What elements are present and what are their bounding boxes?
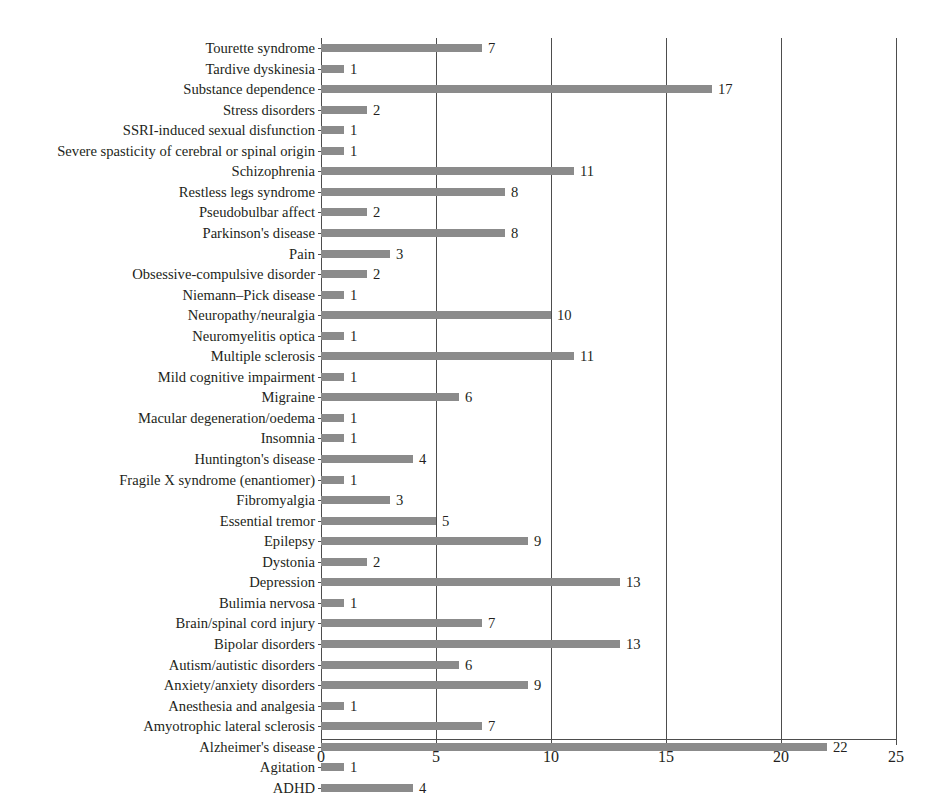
bar-value-label: 1	[350, 141, 357, 162]
category-label: Obsessive-compulsive disorder	[0, 264, 315, 285]
bar-value-label: 2	[373, 202, 380, 223]
bar-value-label: 13	[626, 634, 641, 655]
category-label: Insomnia	[0, 428, 315, 449]
bar-row: SSRI-induced sexual disfunction1	[0, 120, 942, 141]
bar-value-label: 2	[373, 264, 380, 285]
bar	[321, 476, 344, 484]
bar-value-label: 10	[557, 305, 572, 326]
bar	[321, 352, 574, 360]
bar-value-label: 8	[511, 223, 518, 244]
bar	[321, 291, 344, 299]
category-label: Epilepsy	[0, 531, 315, 552]
bar-value-label: 7	[488, 613, 495, 634]
bar-row: Agitation1	[0, 757, 942, 778]
bar-value-label: 9	[534, 675, 541, 696]
category-label: Substance dependence	[0, 79, 315, 100]
bar	[321, 311, 551, 319]
bar-value-label: 4	[419, 778, 426, 798]
bar-value-label: 1	[350, 367, 357, 388]
bar	[321, 681, 528, 689]
bar-value-label: 4	[419, 449, 426, 470]
bar-value-label: 1	[350, 120, 357, 141]
bar-value-label: 2	[373, 100, 380, 121]
bar-value-label: 13	[626, 572, 641, 593]
category-label: Amyotrophic lateral sclerosis	[0, 716, 315, 737]
bar	[321, 126, 344, 134]
category-label: Alzheimer's disease	[0, 737, 315, 758]
bar	[321, 496, 390, 504]
bar-row: Obsessive-compulsive disorder2	[0, 264, 942, 285]
bar-row: Pseudobulbar affect2	[0, 202, 942, 223]
category-label: Anxiety/anxiety disorders	[0, 675, 315, 696]
bar-row: Schizophrenia11	[0, 161, 942, 182]
bar-row: Stress disorders2	[0, 100, 942, 121]
bar	[321, 434, 344, 442]
bar-row: Mild cognitive impairment1	[0, 367, 942, 388]
bar-value-label: 6	[465, 655, 472, 676]
bar-row: Amyotrophic lateral sclerosis7	[0, 716, 942, 737]
bar	[321, 619, 482, 627]
bar	[321, 250, 390, 258]
bar-value-label: 1	[350, 593, 357, 614]
bar-row: Tardive dyskinesia1	[0, 59, 942, 80]
bar	[321, 661, 459, 669]
bar-row: Anxiety/anxiety disorders9	[0, 675, 942, 696]
bar-row: Huntington's disease4	[0, 449, 942, 470]
bar-value-label: 11	[580, 346, 594, 367]
bar	[321, 393, 459, 401]
category-label: Bipolar disorders	[0, 634, 315, 655]
bar	[321, 65, 344, 73]
category-label: Tourette syndrome	[0, 38, 315, 59]
bar-value-label: 7	[488, 716, 495, 737]
category-label: Severe spasticity of cerebral or spinal …	[0, 141, 315, 162]
bar-value-label: 1	[350, 696, 357, 717]
bar-row: Bulimia nervosa1	[0, 593, 942, 614]
category-label: Depression	[0, 572, 315, 593]
bar-value-label: 22	[833, 737, 848, 758]
bar-value-label: 3	[396, 244, 403, 265]
bar-value-label: 1	[350, 408, 357, 429]
category-label: Neuromyelitis optica	[0, 326, 315, 347]
bar-value-label: 1	[350, 326, 357, 347]
category-label: Brain/spinal cord injury	[0, 613, 315, 634]
bar	[321, 702, 344, 710]
category-label: Huntington's disease	[0, 449, 315, 470]
bar	[321, 332, 344, 340]
bar-row: Migraine6	[0, 387, 942, 408]
bar-row: Dystonia2	[0, 552, 942, 573]
bar	[321, 229, 505, 237]
bar-value-label: 5	[442, 511, 449, 532]
category-label: Autism/autistic disorders	[0, 655, 315, 676]
bar-row: Substance dependence17	[0, 79, 942, 100]
horizontal-bar-chart: 0510152025Tourette syndrome7Tardive dysk…	[0, 0, 942, 798]
bar-row: Alzheimer's disease22	[0, 737, 942, 758]
bar	[321, 270, 367, 278]
bar	[321, 743, 827, 751]
category-label: Essential tremor	[0, 511, 315, 532]
category-label: Parkinson's disease	[0, 223, 315, 244]
category-label: Fibromyalgia	[0, 490, 315, 511]
bar-row: Anesthesia and analgesia1	[0, 696, 942, 717]
bar-row: Autism/autistic disorders6	[0, 655, 942, 676]
bar-value-label: 1	[350, 285, 357, 306]
bar-row: Restless legs syndrome8	[0, 182, 942, 203]
bar-row: Neuropathy/neuralgia10	[0, 305, 942, 326]
bar-value-label: 11	[580, 161, 594, 182]
bar	[321, 722, 482, 730]
category-label: Restless legs syndrome	[0, 182, 315, 203]
category-label: Anesthesia and analgesia	[0, 696, 315, 717]
category-label: Pseudobulbar affect	[0, 202, 315, 223]
bar	[321, 537, 528, 545]
bar-row: Macular degeneration/oedema1	[0, 408, 942, 429]
bar-value-label: 17	[718, 79, 733, 100]
bar-value-label: 2	[373, 552, 380, 573]
category-label: Migraine	[0, 387, 315, 408]
category-label: Schizophrenia	[0, 161, 315, 182]
bar	[321, 208, 367, 216]
bar	[321, 784, 413, 792]
category-label: Multiple sclerosis	[0, 346, 315, 367]
category-label: Fragile X syndrome (enantiomer)	[0, 470, 315, 491]
bar-value-label: 7	[488, 38, 495, 59]
bar-value-label: 3	[396, 490, 403, 511]
category-label: Niemann–Pick disease	[0, 285, 315, 306]
